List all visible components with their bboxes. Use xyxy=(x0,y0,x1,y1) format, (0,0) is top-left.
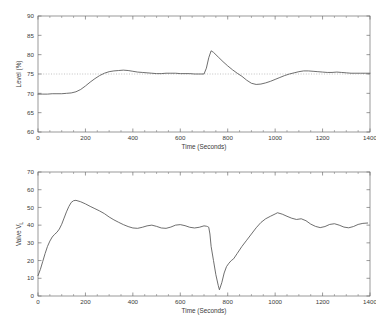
x-tick-label: 1200 xyxy=(316,134,330,141)
y-tick-label: 75 xyxy=(27,70,34,77)
y-tick-label: 60 xyxy=(27,186,34,193)
level-chart-panel: 020040060080010001200140060657075808590T… xyxy=(0,6,376,164)
x-tick-label: 0 xyxy=(36,298,40,305)
screenshot-root: 020040060080010001200140060657075808590T… xyxy=(0,0,376,329)
y-axis-label: Level (%) xyxy=(15,61,23,88)
y-tick-label: 30 xyxy=(27,239,34,246)
x-tick-label: 400 xyxy=(128,134,139,141)
data-line xyxy=(38,200,368,289)
x-tick-label: 600 xyxy=(175,298,186,305)
data-line xyxy=(38,51,370,94)
x-tick-label: 200 xyxy=(80,134,91,141)
x-tick-label: 1400 xyxy=(363,134,376,141)
x-tick-label: 800 xyxy=(223,134,234,141)
valve-chart-panel: 0200400600800100012001400010203040506070… xyxy=(0,166,376,329)
y-tick-label: 50 xyxy=(27,204,34,211)
valve-chart-svg: 0200400600800100012001400010203040506070… xyxy=(0,166,376,329)
y-tick-label: 20 xyxy=(27,257,34,264)
y-tick-label: 85 xyxy=(27,32,34,39)
x-axis-label: Time (Seconds) xyxy=(182,307,227,315)
x-tick-label: 1000 xyxy=(268,134,282,141)
x-tick-label: 200 xyxy=(80,298,91,305)
x-tick-label: 0 xyxy=(36,134,40,141)
level-chart-svg: 020040060080010001200140060657075808590T… xyxy=(0,6,376,164)
y-tick-label: 80 xyxy=(27,51,34,58)
x-tick-label: 1000 xyxy=(268,298,282,305)
y-tick-label: 40 xyxy=(27,221,34,228)
x-tick-label: 1400 xyxy=(363,298,376,305)
y-tick-label: 10 xyxy=(27,274,34,281)
plot-frame xyxy=(38,172,370,296)
x-tick-label: 600 xyxy=(175,134,186,141)
y-axis-label: Valve VL xyxy=(15,222,24,247)
x-tick-label: 1200 xyxy=(316,298,330,305)
y-tick-label: 0 xyxy=(31,292,35,299)
y-tick-label: 60 xyxy=(27,128,34,135)
x-axis-label: Time (Seconds) xyxy=(182,143,227,151)
x-tick-label: 800 xyxy=(223,298,234,305)
y-tick-label: 70 xyxy=(27,90,34,97)
y-tick-label: 70 xyxy=(27,168,34,175)
x-tick-label: 400 xyxy=(128,298,139,305)
y-tick-label: 65 xyxy=(27,109,34,116)
y-tick-label: 90 xyxy=(27,12,34,19)
